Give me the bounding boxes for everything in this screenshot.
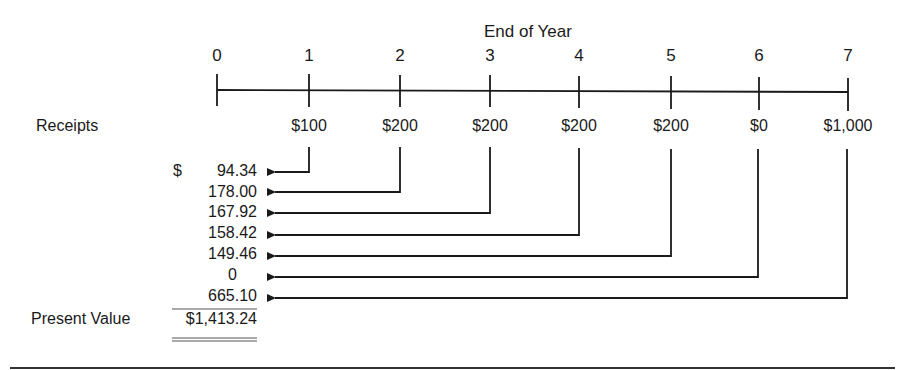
arrow-year-2 <box>275 147 400 192</box>
arrow-year-1 <box>275 147 309 172</box>
arrow-year-3 <box>275 147 490 213</box>
arrow-year-7 <box>275 149 847 298</box>
arrow-year-5 <box>275 149 671 256</box>
timeline-graphic <box>0 0 903 370</box>
timeline-axis <box>217 90 848 92</box>
